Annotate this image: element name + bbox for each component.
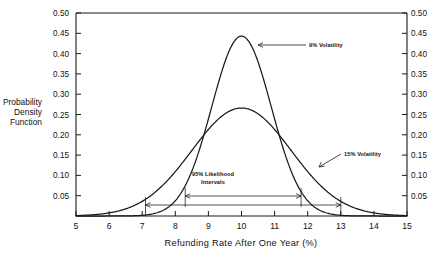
y-tick-label-right: 0.40 (411, 50, 427, 59)
x-tick-label: 6 (107, 221, 112, 231)
x-tick-label: 14 (369, 221, 379, 231)
y-tick-label: 0.45 (53, 29, 69, 38)
y-tick-label-right: 0.20 (411, 131, 427, 140)
y-axis-title-line2: Density (14, 107, 43, 117)
x-tick-label: 7 (140, 221, 145, 231)
x-tick-label: 12 (303, 221, 313, 231)
y-tick-label-right: 0.05 (411, 192, 427, 201)
annotation-9-percent-label: 9% Volatility (309, 42, 344, 48)
y-tick-label: 0.25 (53, 111, 69, 120)
x-axis-title: Refunding Rate After One Year (%) (165, 238, 318, 248)
y-tick-label: 0.10 (53, 171, 69, 180)
y-axis-title-line3: Function (10, 117, 42, 127)
x-tick-label: 5 (74, 221, 79, 231)
y-tick-label: 0.05 (53, 192, 69, 201)
pdf-chart: 0.500.450.400.350.300.250.200.150.100.05… (0, 0, 432, 255)
y-tick-label-right: 0.25 (411, 111, 427, 120)
y-tick-label-right: 0.15 (411, 151, 427, 160)
y-tick-label-right: 0.30 (411, 90, 427, 99)
y-tick-label: 0.40 (53, 50, 69, 59)
y-tick-label-right: 0.45 (411, 29, 427, 38)
y-tick-label: 0.35 (53, 70, 69, 79)
interval-label-line2: Intervals (201, 179, 225, 185)
x-tick-label: 15 (402, 221, 412, 231)
y-tick-label: 0.20 (53, 131, 69, 140)
y-tick-label: 0.15 (53, 151, 69, 160)
y-tick-label: 0.30 (53, 90, 69, 99)
y-axis-title-line1: Probability (3, 97, 43, 107)
x-tick-label: 11 (270, 221, 279, 231)
y-tick-label: 0.50 (53, 9, 69, 18)
annotation-15-percent-label: 15% Volatility (344, 151, 382, 157)
x-tick-label: 8 (173, 221, 178, 231)
x-tick-label: 9 (206, 221, 211, 231)
y-tick-label-right: 0.10 (411, 171, 427, 180)
y-tick-label-right: 0.50 (411, 9, 427, 18)
interval-label-line1: 95% Likelihood (192, 171, 235, 177)
y-tick-label-right: 0.35 (411, 70, 427, 79)
x-tick-label: 10 (237, 221, 247, 231)
x-tick-label: 13 (336, 221, 346, 231)
